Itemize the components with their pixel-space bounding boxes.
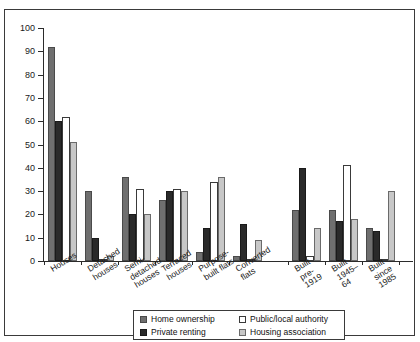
bar (136, 189, 143, 261)
x-axis-tick (362, 261, 363, 265)
bar (159, 200, 166, 261)
chart-frame: 0102030405060708090100 HousesDetached ho… (4, 9, 415, 336)
y-axis-tick-label: 40 (25, 164, 35, 173)
y-axis-tick-label: 30 (25, 187, 35, 196)
y-axis-tick-label: 0 (30, 257, 35, 266)
y-axis-tick-label: 50 (25, 141, 35, 150)
legend-label: Home ownership (151, 315, 215, 324)
y-axis-tick-label: 10 (25, 234, 35, 243)
y-axis-tick (38, 168, 43, 169)
y-axis-tick (38, 75, 43, 76)
bar (388, 191, 395, 261)
bar (173, 189, 180, 261)
y-axis-tick (38, 51, 43, 52)
bar (210, 182, 217, 261)
bar (336, 221, 343, 261)
y-axis-tick-label: 80 (25, 71, 35, 80)
chart-legend: Home ownership Public/local authority Pr… (133, 310, 345, 340)
bar (62, 117, 69, 261)
y-axis-tick-label: 90 (25, 47, 35, 56)
bar (351, 219, 358, 261)
bar (314, 228, 321, 261)
legend-item-housing-association: Housing association (239, 328, 338, 337)
bar (366, 228, 373, 261)
legend-item-home-ownership: Home ownership (140, 315, 239, 324)
x-axis-tick (399, 261, 400, 265)
y-axis-tick (38, 261, 43, 262)
y-axis-tick (38, 98, 43, 99)
y-axis-tick-label: 100 (20, 24, 35, 33)
legend-label: Housing association (250, 328, 326, 337)
x-axis-tick (44, 261, 45, 265)
bar (70, 142, 77, 261)
x-axis-tick (81, 261, 82, 265)
y-axis-line (43, 28, 44, 261)
legend-swatch-icon (239, 316, 246, 323)
bar (55, 121, 62, 261)
y-axis-tick (38, 238, 43, 239)
bar (329, 210, 336, 261)
y-axis-tick-label: 20 (25, 210, 35, 219)
y-axis-tick (38, 214, 43, 215)
legend-item-private-renting: Private renting (140, 328, 239, 337)
legend-swatch-icon (140, 316, 147, 323)
x-axis-tick (325, 261, 326, 265)
legend-row: Private renting Housing association (140, 327, 338, 338)
legend-item-public-local-authority: Public/local authority (239, 315, 338, 324)
y-axis-tick (38, 121, 43, 122)
bar (196, 252, 203, 261)
bar (240, 224, 247, 261)
bar (129, 214, 136, 261)
legend-swatch-icon (140, 329, 147, 336)
y-axis-tick (38, 145, 43, 146)
plot-area: 0102030405060708090100 HousesDetached ho… (43, 28, 413, 261)
bar (292, 210, 299, 261)
bar (299, 168, 306, 261)
bar (85, 191, 92, 261)
legend-label: Public/local authority (250, 315, 328, 324)
legend-label: Private renting (151, 328, 206, 337)
y-axis-tick (38, 191, 43, 192)
bar (166, 191, 173, 261)
bar (343, 165, 350, 261)
legend-row: Home ownership Public/local authority (140, 314, 338, 325)
bar (122, 177, 129, 261)
y-axis-tick-label: 60 (25, 117, 35, 126)
legend-swatch-icon (239, 329, 246, 336)
x-axis-tick (288, 261, 289, 265)
y-axis-tick (38, 28, 43, 29)
bar (48, 47, 55, 261)
y-axis-tick-label: 70 (25, 94, 35, 103)
chart-figure: 0102030405060708090100 HousesDetached ho… (0, 0, 420, 342)
